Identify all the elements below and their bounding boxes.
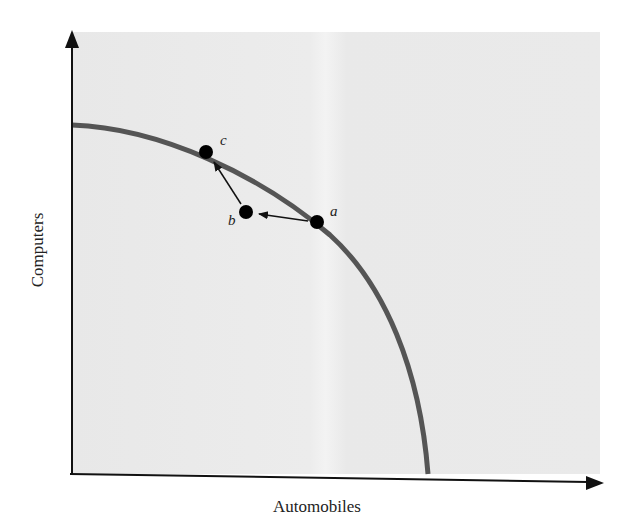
- point-a: [310, 215, 324, 229]
- ppf-curve: [72, 125, 428, 474]
- arrow-a-to-b: [259, 214, 308, 221]
- point-b: [239, 205, 253, 219]
- y-axis: [65, 30, 79, 474]
- x-axis: [70, 474, 604, 490]
- y-axis-label: Computers: [28, 213, 48, 288]
- y-axis-arrow-icon: [65, 30, 79, 48]
- point-c: [199, 145, 213, 159]
- point-b-label: b: [228, 212, 236, 229]
- x-axis-label: Automobiles: [273, 497, 361, 517]
- point-c-label: c: [220, 132, 227, 149]
- ppf-diagram: a b c Automobiles Computers: [0, 0, 632, 529]
- point-a-label: a: [330, 203, 338, 220]
- x-axis-arrow-icon: [586, 476, 604, 490]
- diagram-graphics: [0, 0, 632, 529]
